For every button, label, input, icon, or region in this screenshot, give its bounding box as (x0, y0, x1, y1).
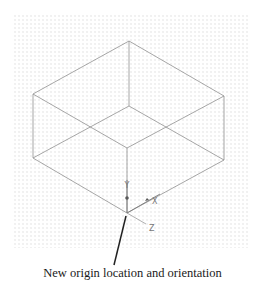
edge-bottom-right-back (129, 106, 224, 160)
edge-front-left-top (33, 94, 127, 148)
edge-top-left (33, 41, 129, 94)
isometric-box-drawing: Y X Z (0, 0, 265, 290)
edge-bottom-left-back (33, 106, 129, 158)
ucs-axis-icon: Y X Z (124, 180, 161, 233)
edge-top-right (129, 41, 224, 96)
x-axis-label: X (152, 197, 158, 206)
y-axis-label: Y (124, 181, 130, 190)
leader-line (114, 216, 126, 265)
edge-front-right-top (127, 96, 224, 148)
z-axis-label: Z (149, 224, 155, 233)
z-axis-line (127, 213, 146, 224)
y-axis-marker-icon (125, 196, 129, 200)
figure-caption: New origin location and orientation (0, 266, 265, 281)
edge-bottom-left-front (33, 158, 127, 213)
diagram-canvas: Y X Z New origin location and orientatio… (0, 0, 265, 290)
